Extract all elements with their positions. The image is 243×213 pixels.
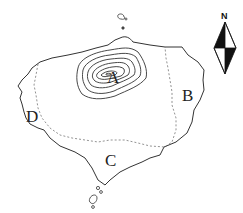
label-a: A xyxy=(107,69,119,86)
north-label: N xyxy=(221,11,228,21)
label-b: B xyxy=(182,87,193,104)
label-c: C xyxy=(105,152,116,169)
label-d: D xyxy=(26,108,38,125)
dashed-boundary xyxy=(34,47,176,147)
north-arrow-icon xyxy=(214,22,236,74)
northern-islets xyxy=(118,14,127,29)
southern-islets xyxy=(89,186,102,208)
